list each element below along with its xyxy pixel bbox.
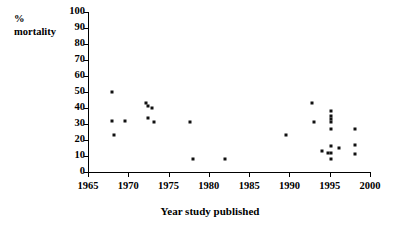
y-tick-label-wrap: 80	[88, 44, 89, 45]
y-tick-label-wrap: 100	[88, 12, 89, 13]
data-point	[191, 158, 194, 161]
x-tick	[128, 172, 129, 177]
y-tick-label-wrap: 40	[88, 108, 89, 109]
y-tick-label: 40	[75, 101, 86, 112]
y-tick-label: 10	[75, 149, 86, 160]
data-point	[338, 147, 341, 150]
data-point	[111, 91, 114, 94]
data-point	[330, 145, 333, 148]
x-tick-label: 1980	[198, 180, 219, 191]
y-tick-label: 100	[69, 5, 85, 16]
x-tick-label: 1990	[279, 180, 300, 191]
x-tick-label: 1975	[158, 180, 179, 191]
x-tick	[88, 172, 89, 177]
x-tick-label: 1965	[78, 180, 99, 191]
y-tick-label: 50	[75, 85, 86, 96]
data-point	[330, 151, 333, 154]
y-tick-label: 80	[75, 37, 86, 48]
data-point	[112, 134, 115, 137]
y-tick-label: 70	[75, 53, 86, 64]
x-tick-label: 1985	[239, 180, 260, 191]
data-point	[111, 119, 114, 122]
data-point	[354, 153, 357, 156]
x-tick	[249, 172, 250, 177]
y-tick-label-wrap: 30	[88, 124, 89, 125]
y-tick-label: 90	[75, 21, 86, 32]
data-point	[146, 116, 149, 119]
data-point	[330, 158, 333, 161]
y-tick-label-wrap: 10	[88, 156, 89, 157]
x-tick	[330, 172, 331, 177]
x-axis-line	[88, 172, 370, 173]
y-tick-label-wrap: 60	[88, 76, 89, 77]
data-point	[330, 110, 333, 113]
y-tick-label-wrap: 90	[88, 28, 89, 29]
plot-area: 0102030405060708090100 19651970197519801…	[88, 12, 370, 172]
data-point	[330, 127, 333, 130]
scatter-chart: %mortality 0102030405060708090100 196519…	[0, 0, 420, 235]
x-tick	[370, 172, 371, 177]
y-axis-title-line: mortality	[14, 25, 76, 38]
y-tick-label-wrap: 20	[88, 140, 89, 141]
x-tick-label: 1970	[118, 180, 139, 191]
data-point	[146, 105, 149, 108]
y-tick-label-wrap: 50	[88, 92, 89, 93]
data-point	[151, 107, 154, 110]
y-tick-label: 20	[75, 133, 86, 144]
y-tick-label: 30	[75, 117, 86, 128]
data-point	[354, 127, 357, 130]
data-point	[153, 121, 156, 124]
data-point	[354, 143, 357, 146]
data-point	[312, 121, 315, 124]
x-tick	[169, 172, 170, 177]
data-point	[310, 102, 313, 105]
y-axis-title-line: %	[14, 12, 76, 25]
data-point	[330, 121, 333, 124]
x-tick-label: 1995	[319, 180, 340, 191]
y-tick-label: 60	[75, 69, 86, 80]
data-point	[285, 134, 288, 137]
data-point	[223, 158, 226, 161]
data-point	[188, 121, 191, 124]
x-tick	[289, 172, 290, 177]
y-tick-label: 0	[80, 165, 85, 176]
x-tick-label: 2000	[360, 180, 381, 191]
y-axis-title: %mortality	[14, 12, 76, 38]
x-axis-title: Year study published	[0, 205, 420, 217]
x-tick	[209, 172, 210, 177]
data-point	[320, 150, 323, 153]
data-point	[124, 119, 127, 122]
y-tick-label-wrap: 70	[88, 60, 89, 61]
